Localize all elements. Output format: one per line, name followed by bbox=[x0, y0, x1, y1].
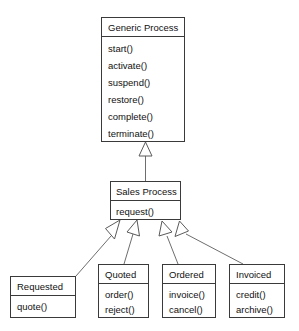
class-box-invoiced[interactable]: Invoiced credit() archive() bbox=[230, 265, 285, 318]
method-ordered-1: cancel() bbox=[169, 304, 203, 315]
class-name-requested: Requested bbox=[17, 281, 63, 292]
class-name-sales-process: Sales Process bbox=[116, 186, 177, 197]
method-generic-process-0: start() bbox=[108, 43, 133, 54]
method-sales-process-0: request() bbox=[116, 206, 154, 217]
method-generic-process-3: restore() bbox=[108, 94, 144, 105]
method-ordered-0: invoice() bbox=[169, 289, 205, 300]
method-generic-process-1: activate() bbox=[108, 60, 147, 71]
class-box-generic-process[interactable]: Generic Process start() activate() suspe… bbox=[102, 18, 185, 142]
class-box-requested[interactable]: Requested quote() bbox=[11, 277, 76, 318]
method-quoted-1: reject() bbox=[105, 304, 135, 315]
method-generic-process-2: suspend() bbox=[108, 77, 150, 88]
generalization-quoted-to-sales bbox=[124, 220, 140, 264]
generalization-invoiced-to-sales bbox=[175, 221, 243, 264]
method-requested-0: quote() bbox=[17, 301, 47, 312]
class-name-invoiced: Invoiced bbox=[236, 269, 271, 280]
method-quoted-0: order() bbox=[105, 289, 134, 300]
class-box-sales-process[interactable]: Sales Process request() bbox=[111, 182, 181, 220]
inheritance-arrowhead-icon bbox=[139, 142, 152, 156]
inheritance-arrowhead-icon bbox=[106, 220, 121, 239]
inheritance-arrowhead-icon bbox=[159, 221, 172, 236]
method-invoiced-0: credit() bbox=[236, 289, 266, 300]
method-generic-process-4: complete() bbox=[108, 111, 153, 122]
uml-class-diagram: Generic Process start() activate() suspe… bbox=[0, 0, 299, 331]
class-name-generic-process: Generic Process bbox=[108, 22, 178, 33]
method-invoiced-1: archive() bbox=[236, 304, 273, 315]
class-name-quoted: Quoted bbox=[105, 269, 136, 280]
generalization-ordered-to-sales bbox=[159, 221, 178, 264]
class-box-ordered[interactable]: Ordered invoice() cancel() bbox=[163, 265, 216, 318]
class-box-quoted[interactable]: Quoted order() reject() bbox=[99, 265, 149, 318]
inheritance-arrowhead-icon bbox=[127, 220, 140, 236]
method-generic-process-5: terminate() bbox=[108, 128, 154, 139]
generalization-sales-to-generic bbox=[139, 142, 152, 181]
class-name-ordered: Ordered bbox=[169, 269, 204, 280]
